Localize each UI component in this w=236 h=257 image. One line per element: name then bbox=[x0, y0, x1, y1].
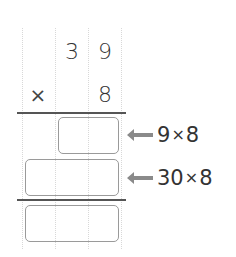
multiplier-ones-digit: 8 bbox=[89, 82, 121, 108]
arrow-left-icon bbox=[127, 172, 153, 184]
partial-product-1-label: 9×8 bbox=[157, 123, 199, 149]
partial-product-2-label: 30×8 bbox=[157, 166, 213, 192]
grid-line-1 bbox=[22, 28, 23, 249]
product-rule-line bbox=[17, 112, 126, 114]
multiplicand-ones-digit: 9 bbox=[89, 39, 121, 65]
multiply-operator: × bbox=[22, 82, 54, 108]
sum-rule-line bbox=[17, 199, 126, 201]
partial-product-2-answer-box[interactable] bbox=[25, 159, 119, 196]
arrow-left-icon bbox=[127, 129, 153, 141]
multiplicand-tens-digit: 3 bbox=[56, 39, 88, 65]
grid-line-4 bbox=[121, 28, 122, 249]
total-answer-box[interactable] bbox=[25, 205, 119, 242]
partial-product-1-answer-box[interactable] bbox=[58, 117, 119, 154]
